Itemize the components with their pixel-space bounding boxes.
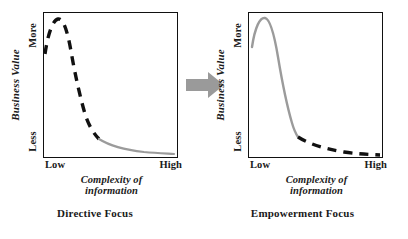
y-axis-tick-labels: More Less: [20, 12, 44, 158]
plot-area: [248, 12, 383, 158]
y-axis-tick-labels: More Less: [225, 12, 249, 158]
x-tick-low: Low: [45, 159, 65, 170]
y-tick-less: Less: [27, 131, 38, 151]
x-axis-title-line1: Complexity of: [286, 174, 348, 185]
y-tick-more: More: [27, 23, 38, 48]
x-axis-tick-labels: Low High: [248, 159, 385, 173]
chart-panel-empowerment: Business Value More Less Low High Comple…: [205, 0, 395, 239]
x-axis-tick-labels: Low High: [43, 159, 180, 173]
x-tick-high: High: [364, 159, 387, 170]
x-tick-low: Low: [250, 159, 270, 170]
x-axis-title-line2: information: [248, 185, 385, 196]
x-axis-title: Complexity of information: [43, 174, 180, 196]
panel-caption-directive: Directive Focus: [0, 207, 190, 219]
curve-dashed-emphasis: [45, 19, 99, 139]
x-axis-title: Complexity of information: [248, 174, 385, 196]
curve-dashed-tail: [298, 137, 380, 155]
x-axis-title-line2: information: [43, 185, 180, 196]
chart-panel-directive: Business Value More Less Low High Comple…: [0, 0, 190, 239]
x-axis-title-line1: Complexity of: [81, 174, 143, 185]
curve-solid-tail: [99, 139, 174, 154]
x-tick-high: High: [159, 159, 182, 170]
y-tick-more: More: [232, 23, 243, 48]
panel-caption-empowerment: Empowerment Focus: [205, 207, 400, 219]
y-tick-less: Less: [232, 131, 243, 151]
curve-solid-peak: [252, 18, 298, 137]
curve-group-empowerment: [249, 13, 384, 159]
curve-group-directive: [44, 13, 179, 159]
plot-area: [43, 12, 178, 158]
